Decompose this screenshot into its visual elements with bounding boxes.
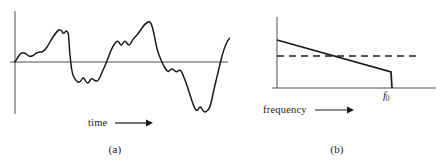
frequency-axis-label: frequency [263, 104, 307, 115]
panel-a-time-domain: time (a) [0, 0, 230, 167]
waveform-path [15, 22, 230, 112]
panel-a-plot [0, 0, 230, 167]
panel-b-plot [230, 0, 444, 167]
panel-b-caption: (b) [230, 143, 444, 155]
figure-container: time (a) f0 frequency [0, 0, 444, 167]
panel-a-caption: (a) [0, 143, 230, 155]
f0-axis-label: f0 [383, 89, 390, 103]
spectrum-envelope-path [277, 40, 392, 88]
time-axis-label: time [88, 117, 107, 128]
f0-subscript: 0 [386, 94, 390, 103]
panel-b-frequency-domain: f0 frequency (b) [230, 0, 444, 167]
